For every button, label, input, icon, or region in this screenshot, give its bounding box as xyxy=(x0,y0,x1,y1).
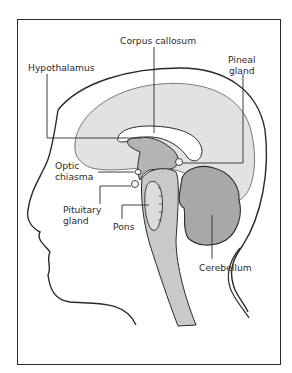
label-cerebellum: Cerebellum xyxy=(199,263,252,274)
leader-pituitary xyxy=(100,186,131,204)
label-corpus-callosum: Corpus callosum xyxy=(120,36,196,47)
pituitary-gland xyxy=(132,181,139,188)
label-pons: Pons xyxy=(113,222,134,233)
label-hypothalamus: Hypothalamus xyxy=(28,63,95,74)
optic-chiasma xyxy=(135,170,141,175)
pineal-gland xyxy=(176,159,183,166)
label-pituitary-gland: Pituitary gland xyxy=(63,205,101,226)
label-pineal-gland: Pineal gland xyxy=(228,55,256,76)
label-optic-chiasma: Optic chiasma xyxy=(55,161,93,182)
cerebellum xyxy=(179,166,240,245)
